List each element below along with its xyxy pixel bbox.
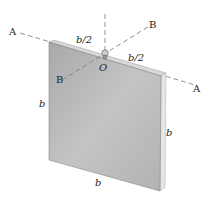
- origin-label: O: [99, 63, 107, 73]
- side-right-label: b: [166, 128, 172, 138]
- axis-b-bottom-label: B: [56, 75, 63, 85]
- side-bottom-label: b: [95, 178, 101, 188]
- half-right-label: b/2: [128, 53, 144, 63]
- half-left-label: b/2: [76, 35, 92, 45]
- axis-a-right-label: A: [193, 84, 200, 94]
- axis-a-left-label: A: [9, 27, 16, 37]
- plate-diagram: [0, 0, 213, 203]
- side-left-label: b: [39, 99, 45, 109]
- axis-b-top-label: B: [149, 20, 156, 30]
- pivot-base-icon: [103, 55, 107, 59]
